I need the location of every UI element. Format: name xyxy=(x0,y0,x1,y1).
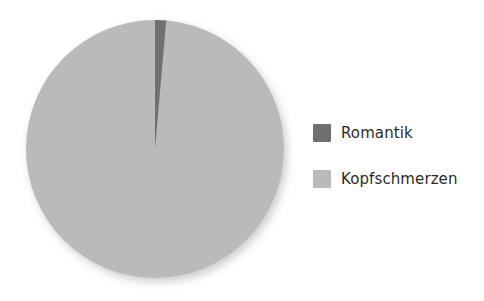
legend-item-romantik[interactable]: Romantik xyxy=(313,110,478,156)
legend-swatch-kopfschmerzen xyxy=(313,170,331,188)
legend-swatch-romantik xyxy=(313,124,331,142)
pie-chart-figure: Romantik Kopfschmerzen xyxy=(0,0,484,301)
pie-chart-svg xyxy=(0,0,300,301)
legend-label-romantik: Romantik xyxy=(341,126,413,141)
legend-item-kopfschmerzen[interactable]: Kopfschmerzen xyxy=(313,156,478,202)
pie-slices-group xyxy=(26,20,284,278)
chart-legend: Romantik Kopfschmerzen xyxy=(313,110,478,202)
pie-chart-plot-area xyxy=(0,0,300,301)
legend-label-kopfschmerzen: Kopfschmerzen xyxy=(341,172,458,187)
